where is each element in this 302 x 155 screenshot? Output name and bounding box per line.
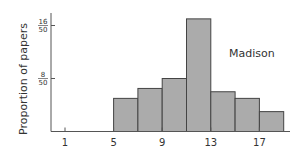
y-tick-denominator: 50: [39, 26, 48, 34]
histogram-chart: 1650850 1591317 Proportion of papers Mad…: [0, 0, 302, 155]
histogram-bar: [235, 98, 259, 131]
y-tick-numerator: 8: [41, 71, 45, 79]
histogram-bar: [162, 79, 186, 132]
histogram-bar: [114, 98, 138, 131]
histogram-bar: [187, 19, 211, 132]
x-tick-label: 5: [110, 137, 116, 148]
x-tick-label: 13: [204, 137, 217, 148]
x-tick-label: 1: [62, 137, 68, 148]
x-tick-label: 17: [253, 137, 266, 148]
y-tick-denominator: 50: [39, 79, 48, 87]
bars-group: [114, 19, 284, 132]
histogram-bar: [259, 112, 283, 132]
y-axis-label: Proportion of papers: [17, 23, 30, 135]
series-annotation: Madison: [229, 47, 275, 60]
histogram-bar: [138, 88, 162, 131]
histogram-bar: [211, 92, 235, 132]
y-ticks: 1650850: [38, 18, 55, 87]
y-tick-numerator: 16: [39, 18, 48, 26]
x-tick-label: 9: [159, 137, 165, 148]
